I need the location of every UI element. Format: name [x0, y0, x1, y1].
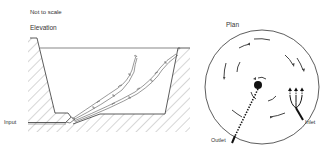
diagram-svg	[0, 0, 336, 151]
outlet-label: Outlet	[211, 138, 226, 144]
diagram-canvas: Not to scale Elevation Input Plan Outlet…	[0, 0, 336, 151]
inlet-label: Inlet	[305, 120, 315, 126]
outlet-sump	[254, 81, 262, 89]
pond-outline-circle	[205, 30, 319, 144]
outlet-pipe-dotted	[235, 89, 258, 136]
elevation-view	[28, 36, 190, 134]
flow-plume	[72, 54, 178, 122]
not-to-scale-note: Not to scale	[30, 9, 62, 15]
inlet-arrowheads	[288, 88, 304, 92]
circulation-arrowheads	[223, 43, 305, 119]
inlet-distributor	[290, 91, 303, 120]
elevation-title: Elevation	[30, 25, 57, 32]
ground-hatching	[28, 36, 190, 134]
outlet-pipe-exit	[232, 136, 235, 143]
input-label: Input	[4, 120, 16, 126]
plan-view	[205, 30, 319, 144]
circulation-arrows	[224, 39, 303, 117]
plan-title: Plan	[226, 22, 239, 29]
